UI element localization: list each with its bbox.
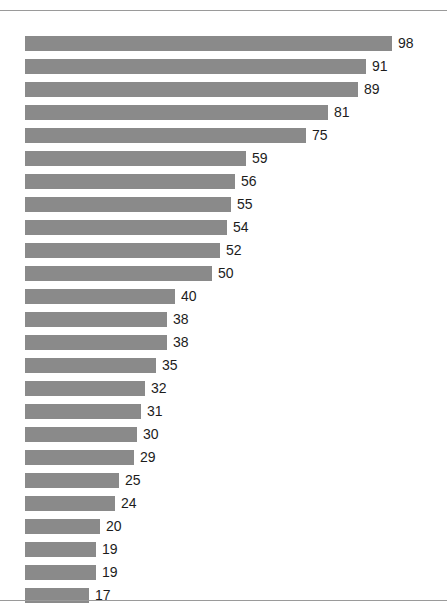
top-rule-divider [0,10,447,11]
bar-value-label: 98 [398,34,414,53]
bar-row: 56 [25,174,425,197]
bar [25,450,134,465]
bar-value-label: 38 [173,333,189,352]
bar-row: 29 [25,450,425,473]
bar-row: 38 [25,312,425,335]
bar-row: 24 [25,496,425,519]
bar-value-label: 91 [372,57,388,76]
bar-chart-figure: 9891898175595655545250403838353231302925… [0,0,447,609]
bar-value-label: 20 [106,517,122,536]
bar-value-label: 55 [237,195,253,214]
bar-row: 31 [25,404,425,427]
bar-row: 19 [25,542,425,565]
bar-row: 19 [25,565,425,588]
bar [25,289,175,304]
bar [25,151,246,166]
bar-value-label: 19 [102,540,118,559]
bar-value-label: 38 [173,310,189,329]
bar [25,197,231,212]
bar-value-label: 35 [162,356,178,375]
bar-value-label: 81 [334,103,350,122]
bar-value-label: 24 [121,494,137,513]
bar-row: 20 [25,519,425,542]
bar-value-label: 40 [181,287,197,306]
bar-row: 59 [25,151,425,174]
bar [25,473,119,488]
bar-row: 30 [25,427,425,450]
bar-value-label: 32 [151,379,167,398]
bar [25,519,100,534]
bar [25,82,358,97]
bar-row: 40 [25,289,425,312]
bar [25,220,227,235]
bar-value-label: 25 [125,471,141,490]
bar [25,565,96,580]
bar [25,243,220,258]
bar-value-label: 31 [147,402,163,421]
bar [25,335,167,350]
bar-value-label: 52 [226,241,242,260]
bar [25,105,328,120]
bar [25,404,141,419]
bar-row: 89 [25,82,425,105]
bar-value-label: 29 [140,448,156,467]
bar [25,358,156,373]
bar [25,128,306,143]
bar-row: 38 [25,335,425,358]
bar-row: 25 [25,473,425,496]
bar-row: 35 [25,358,425,381]
bar [25,36,392,51]
bar [25,312,167,327]
bar-row: 50 [25,266,425,289]
bar [25,427,137,442]
bar-value-label: 30 [143,425,159,444]
bar-row: 55 [25,197,425,220]
plot-area: 9891898175595655545250403838353231302925… [25,36,425,581]
bar-row: 81 [25,105,425,128]
bar-row: 17 [25,588,425,609]
bar-row: 54 [25,220,425,243]
bar-value-label: 75 [312,126,328,145]
bar [25,266,212,281]
bar-row: 32 [25,381,425,404]
bar-value-label: 17 [95,586,111,605]
bar [25,381,145,396]
bar [25,59,366,74]
bar-row: 98 [25,36,425,59]
bar [25,496,115,511]
bottom-rule-divider [0,600,447,601]
bar-value-label: 54 [233,218,249,237]
bar-value-label: 89 [364,80,380,99]
bar-value-label: 19 [102,563,118,582]
bar-row: 52 [25,243,425,266]
bar-value-label: 59 [252,149,268,168]
bar-value-label: 56 [241,172,257,191]
bar-row: 75 [25,128,425,151]
bar [25,174,235,189]
bar-row: 91 [25,59,425,82]
bar [25,542,96,557]
bar-value-label: 50 [218,264,234,283]
